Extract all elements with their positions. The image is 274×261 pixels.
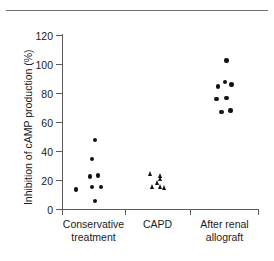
x-axis-line — [62, 209, 259, 210]
y-tick-label-20: 20 — [41, 175, 53, 186]
x-label-line1: After renal — [190, 218, 259, 231]
x-tick-0 — [62, 209, 63, 215]
data-point — [223, 80, 227, 84]
x-label-line2: treatment — [62, 231, 125, 244]
data-point — [224, 96, 228, 100]
y-tick-80: 80 — [56, 93, 62, 94]
x-label-allograft: After renal allograft — [190, 218, 259, 243]
figure-root: Inhibition of cAMP production (%) 020406… — [0, 0, 274, 261]
y-tick-100: 100 — [56, 64, 62, 65]
data-point — [228, 108, 232, 112]
data-point — [74, 187, 78, 191]
data-point — [150, 184, 154, 189]
y-tick-40: 40 — [56, 151, 62, 152]
data-point — [99, 185, 103, 189]
x-tick-1 — [125, 209, 126, 215]
y-tick-label-40: 40 — [41, 146, 53, 157]
data-point — [216, 84, 220, 88]
y-tick-label-120: 120 — [35, 30, 53, 41]
x-label-capd: CAPD — [125, 218, 190, 231]
y-tick-label-100: 100 — [35, 59, 53, 70]
data-point — [229, 82, 233, 86]
x-tick-3 — [258, 209, 259, 215]
y-axis-title: Inhibition of cAMP production (%) — [23, 37, 34, 217]
x-label-line1: Conservative — [62, 218, 125, 231]
data-point — [90, 157, 94, 161]
x-tick-2 — [190, 209, 191, 215]
data-point — [158, 176, 162, 181]
x-label-line2: allograft — [190, 231, 259, 244]
data-point — [162, 185, 166, 190]
data-point — [93, 199, 97, 203]
data-point — [90, 185, 94, 189]
y-axis-line — [62, 34, 63, 210]
y-tick-60: 60 — [56, 122, 62, 123]
data-point — [219, 110, 223, 114]
y-tick-label-60: 60 — [41, 117, 53, 128]
data-point — [148, 171, 152, 176]
data-point — [93, 138, 97, 142]
data-point — [88, 174, 92, 178]
x-label-line1: CAPD — [125, 218, 190, 231]
data-point — [96, 173, 100, 177]
header-rule — [6, 10, 268, 11]
y-tick-label-0: 0 — [47, 204, 53, 215]
y-tick-20: 20 — [56, 180, 62, 181]
y-tick-120: 120 — [56, 35, 62, 36]
y-tick-label-80: 80 — [41, 88, 53, 99]
x-label-conservative: Conservative treatment — [62, 218, 125, 243]
data-point — [224, 58, 228, 62]
data-point — [214, 97, 218, 101]
